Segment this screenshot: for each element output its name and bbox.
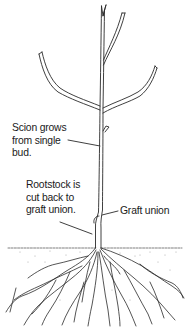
rootstock-label-line-3: graft union. — [26, 203, 80, 216]
graft-union-label: Graft union — [120, 204, 169, 217]
left-branch — [39, 52, 100, 110]
graft-union-leader-line — [102, 211, 118, 215]
upper-right-branch — [104, 13, 126, 65]
rootstock-label-line-2: cut back to — [26, 191, 80, 204]
tree-illustration — [0, 0, 190, 333]
scion-label-line-3: bud. — [12, 146, 66, 159]
grafted-tree-diagram: Scion grows from single bud. Rootstock i… — [0, 0, 190, 333]
rootstock-leader-line — [60, 222, 92, 234]
rootstock-label: Rootstock is cut back to graft union. — [26, 178, 80, 216]
scion-trunk — [95, 5, 106, 248]
scion-label-line-2: from single — [12, 134, 66, 147]
scion-label: Scion grows from single bud. — [12, 121, 66, 159]
scion-label-line-1: Scion grows — [12, 121, 66, 134]
roots — [6, 248, 184, 326]
scion-leader-line — [68, 140, 100, 146]
rootstock-label-line-1: Rootstock is — [26, 178, 80, 191]
right-branch — [103, 66, 157, 113]
graft-union-label-line-1: Graft union — [120, 204, 169, 217]
bud-icon — [103, 126, 109, 132]
